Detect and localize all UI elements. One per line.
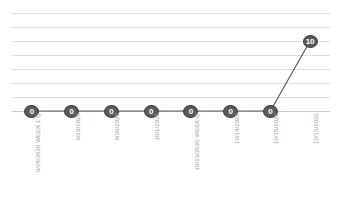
x-axis-label: 10/15/2020: [273, 113, 279, 198]
x-axis-label: 9/28/2020 WEEK 1 Q: [35, 113, 41, 198]
x-axis-label: 10/16/2020: [313, 113, 319, 198]
line-chart: 000000010 9/28/2020 WEEK 1 Q9/29/20209/3…: [0, 0, 346, 198]
x-axis-labels: 9/28/2020 WEEK 1 Q9/29/20209/30/202010/1…: [12, 113, 330, 198]
x-axis-label: 9/30/2020: [114, 113, 120, 198]
x-axis-label: 10/13/2020 WEEK Q: [194, 113, 200, 198]
x-axis-label: 10/14/2020: [234, 113, 240, 198]
series-line: [12, 13, 330, 111]
plot-area: 000000010: [12, 13, 330, 111]
x-axis-label: 9/29/2020: [75, 113, 81, 198]
x-axis-label: 10/1/2020: [154, 113, 160, 198]
data-point-marker[interactable]: 10: [303, 35, 318, 48]
chart-title: [0, 0, 346, 4]
